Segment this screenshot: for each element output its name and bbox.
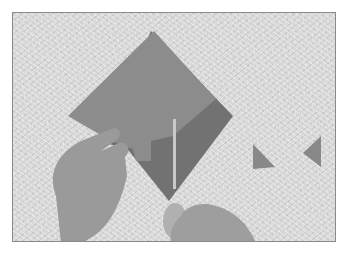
left-hand [53, 128, 129, 242]
cut-triangle-right [303, 136, 321, 167]
photo [12, 12, 336, 242]
scene [13, 13, 336, 242]
cut-triangle-left [253, 144, 275, 169]
scissors-blade [173, 119, 176, 189]
